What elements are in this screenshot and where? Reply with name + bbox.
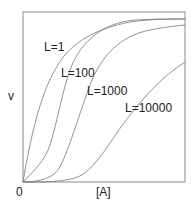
allosteric-curves-diagram: L=1 L=100 L=1000 L=10000 v 0 [A] <box>0 0 193 204</box>
origin-label: 0 <box>16 185 23 199</box>
curve-l10000 <box>23 62 185 182</box>
label-l1: L=1 <box>44 40 65 54</box>
label-l10000: L=10000 <box>125 101 172 115</box>
label-l100: L=100 <box>61 66 95 80</box>
label-l1000: L=1000 <box>87 84 128 98</box>
x-axis-label: [A] <box>96 185 111 199</box>
y-axis-label: v <box>8 89 14 103</box>
